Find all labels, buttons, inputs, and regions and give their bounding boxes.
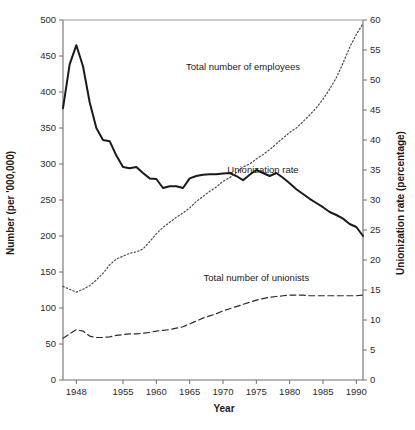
y-left-tick-label: 500 <box>40 14 56 25</box>
y-left-axis-title: Number (per '000,000) <box>5 151 16 255</box>
x-tick-label: 1985 <box>312 386 333 397</box>
y-left-tick-label: 400 <box>40 86 56 97</box>
y-right-tick-label: 55 <box>370 44 381 55</box>
series-annotation-total-number-of-employees: Total number of employees <box>186 61 300 72</box>
x-tick-label: 1955 <box>112 386 133 397</box>
y-right-tick-label: 20 <box>370 254 381 265</box>
y-right-tick-label: 0 <box>370 374 375 385</box>
x-tick-label: 1980 <box>279 386 300 397</box>
x-tick-label: 1970 <box>212 386 233 397</box>
x-tick-label: 1990 <box>346 386 367 397</box>
x-axis-title: Year <box>213 403 234 414</box>
y-left-tick-label: 450 <box>40 50 56 61</box>
y-left-tick-label: 300 <box>40 158 56 169</box>
y-right-tick-label: 60 <box>370 14 381 25</box>
x-tick-label: 1975 <box>246 386 267 397</box>
chart-figure: 050100150200250300350400450500 051015202… <box>0 0 415 430</box>
y-right-tick-label: 45 <box>370 104 381 115</box>
y-left-tick-label: 150 <box>40 266 56 277</box>
y-right-axis-title: Unionization rate (percentage) <box>395 131 406 275</box>
y-left-tick-label: 200 <box>40 230 56 241</box>
x-tick-label: 1948 <box>66 386 87 397</box>
y-right-tick-label: 35 <box>370 164 381 175</box>
y-left-tick-label: 250 <box>40 194 56 205</box>
y-right-tick-label: 50 <box>370 74 381 85</box>
y-left-tick-label: 350 <box>40 122 56 133</box>
x-tick-label: 1965 <box>179 386 200 397</box>
unionization-line-chart: 050100150200250300350400450500 051015202… <box>0 0 415 430</box>
y-right-tick-label: 25 <box>370 224 381 235</box>
y-right-tick-label: 15 <box>370 284 381 295</box>
y-right-tick-label: 40 <box>370 134 381 145</box>
x-tick-label: 1960 <box>146 386 167 397</box>
series-annotation-unionization-rate: Unionization rate <box>227 164 298 175</box>
y-right-tick-label: 10 <box>370 314 381 325</box>
y-left-tick-label: 0 <box>51 374 56 385</box>
y-left-tick-label: 50 <box>45 338 56 349</box>
y-right-tick-label: 30 <box>370 194 381 205</box>
series-annotation-total-number-of-unionists: Total number of unionists <box>204 272 310 283</box>
y-right-tick-label: 5 <box>370 344 375 355</box>
y-left-tick-label: 100 <box>40 302 56 313</box>
